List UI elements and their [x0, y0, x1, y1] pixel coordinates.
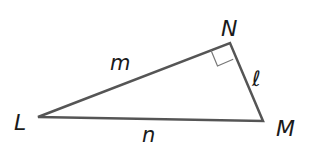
- vertex-label-n: N: [221, 16, 237, 41]
- right-angle-marker: [211, 50, 233, 66]
- vertex-label-l: L: [14, 110, 26, 135]
- triangle-diagram: N L M m ℓ n: [0, 0, 317, 157]
- vertex-label-m: M: [276, 116, 295, 141]
- side-label-m: m: [110, 51, 130, 75]
- triangle-lmn: [38, 43, 263, 121]
- side-label-n: n: [142, 123, 155, 147]
- side-label-l: ℓ: [251, 67, 261, 91]
